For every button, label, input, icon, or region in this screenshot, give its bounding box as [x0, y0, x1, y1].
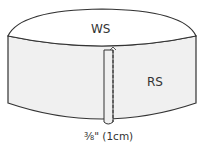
band-body — [8, 36, 196, 119]
label-wrong-side: WS — [91, 22, 110, 36]
cylinder-band-diagram: WS RS ⅜" (1cm) — [0, 0, 205, 149]
label-right-side: RS — [147, 75, 163, 89]
seam-allowance — [104, 50, 113, 124]
label-seam-allowance: ⅜" (1cm) — [84, 130, 133, 142]
